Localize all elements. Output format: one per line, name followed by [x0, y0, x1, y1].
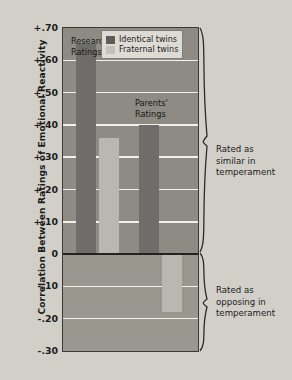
y-tick-2: +.50 — [24, 86, 58, 97]
legend-swatch-fraternal-icon — [106, 46, 115, 54]
y-tick-9: -.20 — [24, 312, 58, 323]
legend-label-identical: Identical twins — [119, 35, 177, 44]
bar-fraternal-group-1 — [162, 254, 182, 312]
zero-line — [63, 253, 198, 255]
bar-fraternal-group-0 — [99, 138, 119, 254]
annotation-similar: Rated as similar in temperament — [216, 144, 275, 179]
brace-negative-icon — [198, 251, 214, 353]
legend-label-fraternal: Fraternal twins — [119, 45, 178, 54]
y-tick-0: +.70 — [24, 22, 58, 33]
y-tick-6: +.10 — [24, 215, 58, 226]
gridline — [63, 318, 198, 320]
y-tick-7: 0 — [24, 248, 58, 259]
plot-area: Researchers' Ratings Parents' Ratings — [62, 27, 199, 352]
y-tick-3: +.40 — [24, 118, 58, 129]
y-tick-1: +.60 — [24, 54, 58, 65]
chart-container: Correlation Between Ratings of Emotional… — [0, 0, 292, 380]
chart-legend: Identical twins Fraternal twins — [101, 30, 183, 59]
legend-item-identical: Identical twins — [106, 35, 178, 44]
y-tick-8: -.10 — [24, 280, 58, 291]
category-label-parents: Parents' Ratings — [135, 98, 168, 119]
legend-swatch-identical-icon — [106, 36, 115, 44]
y-axis-tick-labels: +.70+.60+.50+.40+.30+.20+.100-.10-.20-.3… — [22, 0, 58, 380]
brace-positive-icon — [198, 26, 214, 254]
y-tick-4: +.30 — [24, 151, 58, 162]
annotation-opposing: Rated as opposing in temperament — [216, 285, 275, 320]
bar-identical-group-1 — [139, 125, 159, 254]
legend-item-fraternal: Fraternal twins — [106, 45, 178, 54]
bar-identical-group-0 — [76, 44, 96, 254]
plot-inner — [63, 28, 198, 351]
y-tick-5: +.20 — [24, 183, 58, 194]
y-tick-10: -.30 — [24, 345, 58, 356]
